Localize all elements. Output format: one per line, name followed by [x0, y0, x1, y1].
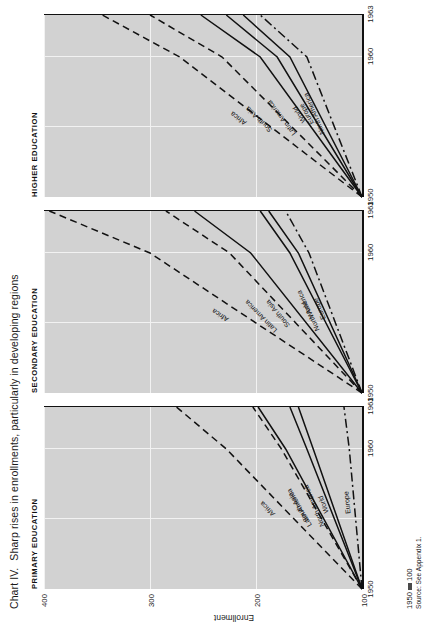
panel-title: PRIMARY EDUCATION — [30, 498, 39, 589]
series-line — [201, 15, 362, 197]
series-line — [150, 15, 362, 197]
series-line — [102, 15, 362, 197]
figure-caption: Chart IV.Sharp rises in enrollments, par… — [8, 274, 20, 609]
panel-title: HIGHER EDUCATION — [30, 112, 39, 197]
series-line — [290, 407, 362, 589]
plot-area: AfricaLatin AmericaSouth AsiaWorldNorth … — [44, 210, 364, 393]
x-axis-ticks: 195019601963 — [366, 14, 386, 197]
panel-higher-education: HIGHER EDUCATIONAfricaSouth AsiaLatin Am… — [30, 14, 390, 197]
y-tick-label: 400 — [40, 594, 49, 607]
x-tick-label: 1960 — [366, 48, 375, 65]
figure-footnote: 1950100 Source: See Appendix 1. — [405, 536, 424, 609]
caption-number: Chart IV. — [8, 568, 20, 609]
index-value: 100 — [405, 568, 414, 581]
series-line — [286, 211, 362, 393]
y-axis-ticks: 100200300400 — [44, 591, 364, 613]
x-axis-ticks: 195019601963 — [366, 406, 386, 589]
series-line — [260, 211, 362, 393]
index-year: 1950 — [405, 592, 414, 609]
x-tick-label: 1950 — [366, 188, 375, 205]
series-line — [177, 407, 363, 589]
caption-text: Sharp rises in enrollments, particularly… — [8, 274, 20, 560]
equals-mark-icon — [408, 583, 412, 590]
x-axis-ticks: 195019601963 — [366, 210, 386, 393]
rotated-figure: Chart IV.Sharp rises in enrollments, par… — [0, 0, 437, 631]
panels-row: PRIMARY EDUCATION100200300400AfricaSouth… — [30, 14, 390, 589]
x-tick-label: 1950 — [366, 384, 375, 401]
y-tick-label: 200 — [253, 594, 262, 607]
x-tick-label: 1960 — [366, 440, 375, 457]
source-note: Source: See Appendix 1. — [415, 536, 424, 609]
x-tick-label: 1950 — [366, 580, 375, 597]
plot-area: AfricaSouth AsiaLatin AmericaWorldEurope… — [44, 14, 364, 197]
y-axis-title: Enrollment — [214, 613, 254, 623]
x-tick-label: 1963 — [366, 5, 375, 22]
panel-secondary-education: SECONDARY EDUCATIONAfricaLatin AmericaSo… — [30, 210, 390, 393]
x-tick-label: 1960 — [366, 244, 375, 261]
chart-page: Chart IV.Sharp rises in enrollments, par… — [0, 0, 437, 631]
panel-primary-education: PRIMARY EDUCATION100200300400AfricaSouth… — [30, 406, 390, 589]
plot-area: AfricaSouth AsiaLatin AmericaNorth Ameri… — [44, 406, 364, 589]
panel-title: SECONDARY EDUCATION — [30, 288, 39, 393]
y-tick-label: 300 — [146, 594, 155, 607]
